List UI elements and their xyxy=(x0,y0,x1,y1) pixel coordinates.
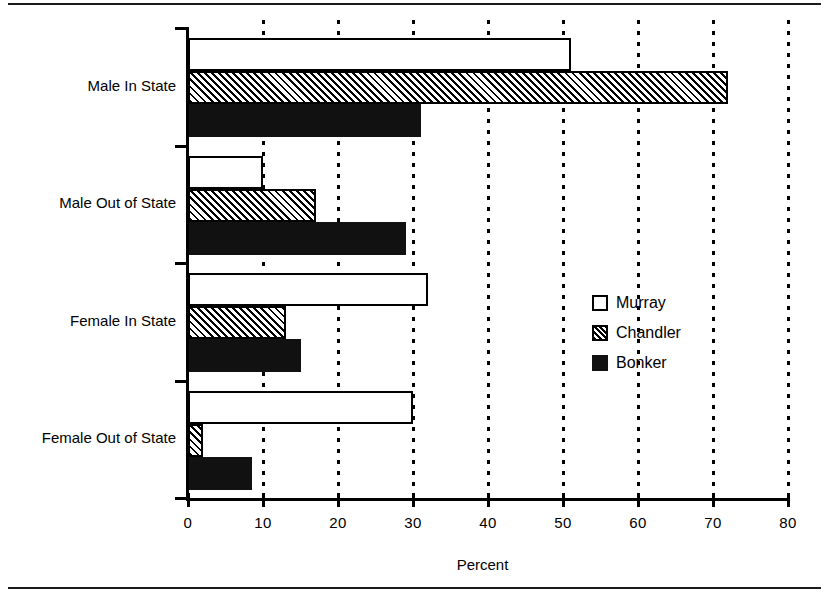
bar-murray-2 xyxy=(188,273,428,306)
bar-murray-0 xyxy=(188,38,571,71)
bar-bonker-2 xyxy=(188,339,301,372)
legend-item-murray: Murray xyxy=(592,288,722,318)
plot-area: 01020304050607080 xyxy=(188,28,788,498)
x-tick-label-60: 60 xyxy=(608,514,668,531)
y-tick-3 xyxy=(175,380,189,383)
x-tick-50 xyxy=(562,493,565,507)
bar-murray-1 xyxy=(188,156,263,189)
x-tick-20 xyxy=(337,493,340,507)
chart-legend: MurrayChandlerBonker xyxy=(592,288,722,378)
x-tick-label-50: 50 xyxy=(533,514,593,531)
category-label-0: Male In State xyxy=(6,77,176,94)
bar-bonker-3 xyxy=(188,457,252,490)
hatched-square-icon xyxy=(592,325,608,341)
x-tick-10 xyxy=(262,493,265,507)
x-tick-80 xyxy=(787,493,790,507)
gridline-80 xyxy=(787,20,790,498)
bar-chandler-0 xyxy=(188,71,728,104)
x-tick-40 xyxy=(487,493,490,507)
x-tick-label-80: 80 xyxy=(758,514,818,531)
bar-chart-figure: Male In StateMale Out of StateFemale In … xyxy=(0,0,829,597)
legend-label-bonker: Bonker xyxy=(616,354,667,372)
x-tick-label-10: 10 xyxy=(233,514,293,531)
x-axis-title-text: Percent xyxy=(457,556,509,573)
bar-chandler-2 xyxy=(188,306,286,339)
page-rule-bottom xyxy=(8,587,821,589)
white-square-icon xyxy=(592,295,608,311)
legend-label-chandler: Chandler xyxy=(616,324,681,342)
bar-murray-3 xyxy=(188,391,413,424)
black-square-icon xyxy=(592,355,608,371)
y-tick-0 xyxy=(175,27,189,30)
legend-item-chandler: Chandler xyxy=(592,318,722,348)
category-label-2: Female In State xyxy=(6,312,176,329)
x-tick-0 xyxy=(187,493,190,507)
x-tick-70 xyxy=(712,493,715,507)
y-tick-2 xyxy=(175,262,189,265)
y-tick-1 xyxy=(175,145,189,148)
x-tick-label-20: 20 xyxy=(308,514,368,531)
bar-chandler-1 xyxy=(188,189,316,222)
category-axis-labels: Male In StateMale Out of StateFemale In … xyxy=(0,28,176,498)
legend-item-bonker: Bonker xyxy=(592,348,722,378)
category-label-3: Female Out of State xyxy=(6,429,176,446)
x-tick-label-0: 0 xyxy=(158,514,218,531)
bar-bonker-0 xyxy=(188,104,421,137)
x-tick-label-40: 40 xyxy=(458,514,518,531)
page-rule-top xyxy=(8,3,821,5)
x-tick-30 xyxy=(412,493,415,507)
category-label-1: Male Out of State xyxy=(6,194,176,211)
legend-label-murray: Murray xyxy=(616,294,666,312)
x-tick-label-70: 70 xyxy=(683,514,743,531)
bar-bonker-1 xyxy=(188,222,406,255)
bar-chandler-3 xyxy=(188,424,203,457)
x-tick-60 xyxy=(637,493,640,507)
x-tick-label-30: 30 xyxy=(383,514,443,531)
x-axis-title: Percent xyxy=(0,556,829,573)
